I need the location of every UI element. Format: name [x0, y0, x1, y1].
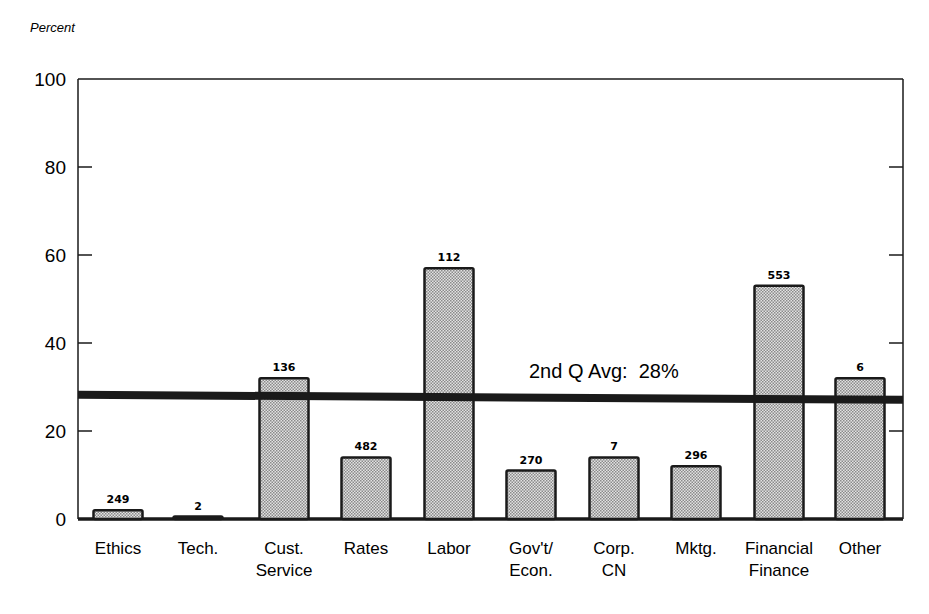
bar-count-label: 2	[194, 500, 202, 513]
bar-count-label: 112	[438, 251, 461, 264]
y-tick-label: 100	[34, 69, 66, 90]
y-tick-label: 80	[45, 157, 66, 178]
bar-count-label: 553	[768, 269, 791, 282]
y-tick-label: 60	[45, 245, 66, 266]
bar: 7	[590, 440, 639, 519]
bar: 482	[342, 440, 391, 519]
bar-count-label: 482	[355, 440, 378, 453]
bar: 249	[94, 493, 143, 519]
bar-count-label: 270	[520, 454, 543, 467]
bar: 136	[260, 361, 309, 519]
bar: 296	[672, 449, 721, 519]
bars: 249213648211227072965536	[94, 251, 885, 519]
bar: 553	[755, 269, 804, 519]
x-category-label: Other	[839, 539, 882, 558]
x-category-label: Cust.Service	[256, 539, 313, 580]
x-category-label: Corp.CN	[593, 539, 635, 580]
x-axis-labels: EthicsTech.Cust.ServiceRatesLaborGov't/E…	[95, 539, 882, 580]
x-category-label: Ethics	[95, 539, 141, 558]
bar-chart: Percent 020406080100 2492136482112270729…	[0, 0, 929, 614]
bar: 270	[507, 454, 556, 519]
x-category-label: Gov't/Econ.	[509, 539, 553, 580]
x-category-label: FinancialFinance	[745, 539, 813, 580]
bar-count-label: 136	[273, 361, 296, 374]
y-tick-label: 0	[55, 509, 66, 530]
bar-count-label: 296	[685, 449, 708, 462]
bar: 6	[836, 361, 885, 519]
bar: 2	[174, 500, 223, 520]
x-category-label: Tech.	[178, 539, 219, 558]
x-category-label: Labor	[427, 539, 471, 558]
y-tick-label: 20	[45, 421, 66, 442]
bar-count-label: 6	[856, 361, 864, 374]
bar-count-label: 249	[107, 493, 130, 506]
x-category-label: Mktg.	[675, 539, 717, 558]
average-line-label: 2nd Q Avg: 28%	[529, 360, 679, 382]
y-tick-label: 40	[45, 333, 66, 354]
y-axis-title: Percent	[30, 20, 76, 35]
bar: 112	[425, 251, 474, 519]
bar-count-label: 7	[610, 440, 618, 453]
x-category-label: Rates	[344, 539, 388, 558]
